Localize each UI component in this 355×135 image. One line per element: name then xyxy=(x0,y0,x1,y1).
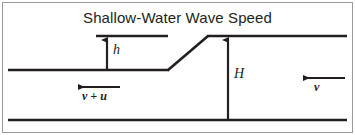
velocity-right-label: v xyxy=(314,80,319,95)
water-depth-label: H xyxy=(234,66,244,82)
velocity-left-label: v + u xyxy=(82,89,107,104)
wave-front-slope-line xyxy=(168,36,209,71)
shallow-water-wave-speed-figure: Shallow-Water Wave Speed h H v + u v xyxy=(0,0,355,135)
wave-diagram xyxy=(0,0,355,135)
wave-height-label: h xyxy=(113,42,120,58)
